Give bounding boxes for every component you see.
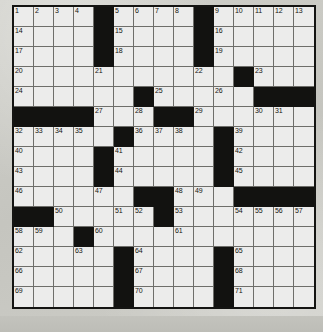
grid-cell[interactable]	[154, 47, 174, 67]
grid-cell[interactable]	[154, 227, 174, 247]
grid-cell[interactable]	[234, 107, 254, 127]
grid-cell[interactable]	[54, 247, 74, 267]
grid-cell[interactable]: 21	[94, 67, 114, 87]
grid-cell[interactable]: 53	[174, 207, 194, 227]
grid-cell[interactable]: 47	[94, 187, 114, 207]
grid-cell[interactable]	[294, 267, 314, 287]
grid-cell[interactable]	[294, 107, 314, 127]
grid-cell[interactable]	[34, 147, 54, 167]
grid-cell[interactable]: 32	[14, 127, 34, 147]
grid-cell[interactable]	[254, 227, 274, 247]
grid-cell[interactable]: 54	[234, 207, 254, 227]
grid-cell[interactable]	[34, 167, 54, 187]
grid-cell[interactable]: 62	[14, 247, 34, 267]
grid-cell[interactable]	[34, 267, 54, 287]
grid-cell[interactable]	[154, 27, 174, 47]
grid-cell[interactable]	[254, 167, 274, 187]
grid-cell[interactable]: 3	[54, 7, 74, 27]
grid-cell[interactable]: 48	[174, 187, 194, 207]
grid-cell[interactable]	[154, 167, 174, 187]
grid-cell[interactable]	[214, 107, 234, 127]
grid-cell[interactable]	[114, 227, 134, 247]
grid-cell[interactable]	[194, 167, 214, 187]
grid-cell[interactable]	[194, 127, 214, 147]
grid-cell[interactable]	[34, 87, 54, 107]
grid-cell[interactable]	[154, 247, 174, 267]
grid-cell[interactable]: 58	[14, 227, 34, 247]
grid-cell[interactable]	[34, 287, 54, 307]
grid-cell[interactable]	[154, 287, 174, 307]
grid-cell[interactable]: 42	[234, 147, 254, 167]
grid-cell[interactable]	[154, 67, 174, 87]
grid-cell[interactable]: 4	[74, 7, 94, 27]
grid-cell[interactable]: 68	[234, 267, 254, 287]
grid-cell[interactable]: 50	[54, 207, 74, 227]
grid-cell[interactable]	[254, 127, 274, 147]
grid-cell[interactable]: 20	[14, 67, 34, 87]
grid-cell[interactable]	[274, 47, 294, 67]
grid-cell[interactable]	[74, 207, 94, 227]
grid-cell[interactable]: 13	[294, 7, 314, 27]
grid-cell[interactable]	[194, 87, 214, 107]
grid-cell[interactable]	[54, 227, 74, 247]
grid-cell[interactable]	[294, 227, 314, 247]
grid-cell[interactable]: 10	[234, 7, 254, 27]
grid-cell[interactable]	[94, 207, 114, 227]
grid-cell[interactable]: 16	[214, 27, 234, 47]
grid-cell[interactable]	[274, 267, 294, 287]
grid-cell[interactable]: 1	[14, 7, 34, 27]
grid-cell[interactable]: 52	[134, 207, 154, 227]
grid-cell[interactable]: 55	[254, 207, 274, 227]
grid-cell[interactable]	[94, 287, 114, 307]
grid-cell[interactable]	[74, 67, 94, 87]
grid-cell[interactable]: 27	[94, 107, 114, 127]
grid-cell[interactable]: 2	[34, 7, 54, 27]
grid-cell[interactable]	[174, 27, 194, 47]
grid-cell[interactable]	[54, 67, 74, 87]
grid-cell[interactable]	[94, 267, 114, 287]
crossword-grid[interactable]: 1234567891011121314151617181920212223242…	[12, 5, 316, 309]
grid-cell[interactable]: 33	[34, 127, 54, 147]
grid-cell[interactable]	[74, 267, 94, 287]
grid-cell[interactable]	[234, 227, 254, 247]
grid-cell[interactable]	[94, 247, 114, 267]
grid-cell[interactable]	[274, 27, 294, 47]
grid-cell[interactable]	[214, 67, 234, 87]
grid-cell[interactable]: 22	[194, 67, 214, 87]
grid-cell[interactable]: 49	[194, 187, 214, 207]
grid-cell[interactable]: 60	[94, 227, 114, 247]
grid-cell[interactable]	[294, 247, 314, 267]
grid-cell[interactable]: 63	[74, 247, 94, 267]
grid-cell[interactable]	[54, 267, 74, 287]
grid-cell[interactable]	[194, 147, 214, 167]
grid-cell[interactable]	[54, 287, 74, 307]
grid-cell[interactable]: 8	[174, 7, 194, 27]
grid-cell[interactable]	[34, 187, 54, 207]
grid-cell[interactable]: 65	[234, 247, 254, 267]
grid-cell[interactable]	[194, 267, 214, 287]
grid-cell[interactable]: 36	[134, 127, 154, 147]
grid-cell[interactable]	[174, 67, 194, 87]
grid-cell[interactable]: 18	[114, 47, 134, 67]
grid-cell[interactable]: 44	[114, 167, 134, 187]
grid-cell[interactable]	[134, 167, 154, 187]
grid-cell[interactable]	[254, 267, 274, 287]
grid-cell[interactable]	[194, 207, 214, 227]
grid-cell[interactable]: 59	[34, 227, 54, 247]
grid-cell[interactable]	[54, 47, 74, 67]
grid-cell[interactable]	[214, 207, 234, 227]
grid-cell[interactable]: 56	[274, 207, 294, 227]
grid-cell[interactable]	[74, 187, 94, 207]
grid-cell[interactable]: 45	[234, 167, 254, 187]
grid-cell[interactable]	[134, 227, 154, 247]
grid-cell[interactable]	[194, 247, 214, 267]
grid-cell[interactable]: 34	[54, 127, 74, 147]
grid-cell[interactable]	[74, 47, 94, 67]
grid-cell[interactable]: 43	[14, 167, 34, 187]
grid-cell[interactable]: 61	[174, 227, 194, 247]
grid-cell[interactable]: 29	[194, 107, 214, 127]
grid-cell[interactable]	[74, 287, 94, 307]
grid-cell[interactable]	[134, 67, 154, 87]
grid-cell[interactable]	[174, 247, 194, 267]
grid-cell[interactable]	[194, 227, 214, 247]
